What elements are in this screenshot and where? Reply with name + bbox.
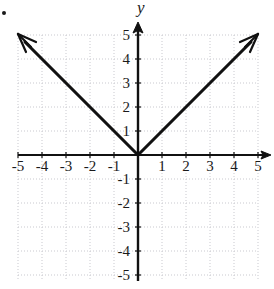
y-tick-label-neg3: -3 (96, 220, 130, 235)
y-axis-label: y (137, 0, 145, 16)
x-tick-label-neg3: -3 (54, 159, 78, 174)
y-tick-label-3: 3 (104, 76, 130, 91)
x-tick-label-1: 1 (150, 159, 174, 174)
y-tick-label-5: 5 (104, 28, 130, 43)
y-tick-label-neg4: -4 (96, 244, 130, 259)
coordinate-plane-svg (0, 0, 274, 289)
x-tick-label-neg5: -5 (6, 159, 30, 174)
x-tick-label-5: 5 (246, 159, 270, 174)
y-tick-label-1: 1 (104, 124, 130, 139)
x-tick-label-3: 3 (198, 159, 222, 174)
y-tick-label-neg1: -1 (96, 172, 130, 187)
y-tick-label-2: 2 (104, 100, 130, 115)
x-tick-label-4: 4 (222, 159, 246, 174)
y-tick-label-neg2: -2 (96, 196, 130, 211)
x-tick-label-neg4: -4 (30, 159, 54, 174)
y-tick-label-neg5: -5 (96, 268, 130, 283)
graph-figure: y -5 -4 -3 -2 -1 1 2 3 4 5 5 4 3 2 1 -1 … (0, 0, 274, 289)
x-tick-label-2: 2 (174, 159, 198, 174)
y-tick-label-4: 4 (104, 52, 130, 67)
x-axis-arrowhead (261, 151, 271, 159)
